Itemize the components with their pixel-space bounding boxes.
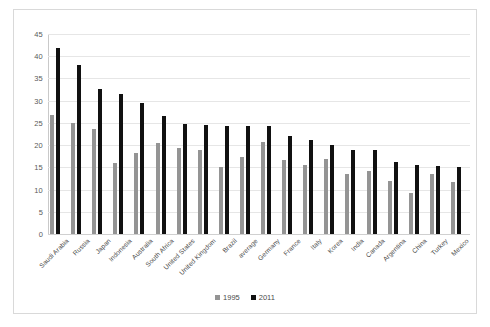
x-axis-tick-label: Turkey: [430, 237, 449, 256]
x-axis-tick-label: Mexico: [450, 237, 470, 257]
y-axis-tick-label: 5: [39, 207, 43, 216]
chart-legend: 19952011: [14, 293, 476, 302]
y-axis-tick-label: 10: [34, 185, 43, 194]
x-axis-tick-label: Russia: [71, 237, 91, 257]
y-axis-tick-label: 45: [34, 30, 43, 39]
x-axis-tick-label: France: [282, 237, 302, 257]
legend-label: 1995: [223, 293, 240, 302]
legend-swatch-icon: [251, 295, 256, 300]
y-axis-tick-label: 15: [34, 163, 43, 172]
chart-frame: 454035302520151050 Saudi ArabiaRussiaJap…: [13, 9, 477, 314]
x-axis-tick-label: Saudi Arabia: [37, 237, 69, 269]
y-axis-tick-label: 30: [34, 96, 43, 105]
y-axis-tick-label: 40: [34, 52, 43, 61]
x-axis-tick-label: Germany: [256, 237, 281, 262]
x-axis-tick-label: Brazil: [221, 237, 238, 254]
y-axis-tick-label: 0: [39, 230, 43, 239]
y-axis-tick-label: 20: [34, 141, 43, 150]
legend-item[interactable]: 1995: [215, 293, 240, 302]
x-axis-tick-label: China: [411, 237, 428, 254]
x-axis-tick-label: Korea: [326, 237, 344, 255]
y-axis-tick-label: 25: [34, 118, 43, 127]
legend-label: 2011: [259, 293, 275, 302]
y-axis-tick-label: 35: [34, 74, 43, 83]
x-axis-tick-label: Italy: [309, 237, 323, 251]
legend-item[interactable]: 2011: [251, 293, 275, 302]
x-axis-tick-label: India: [349, 237, 364, 252]
x-axis-tick-label: Japan: [94, 237, 112, 255]
legend-swatch-icon: [215, 295, 220, 300]
gridline-0: 0: [48, 234, 470, 235]
x-axis-labels: Saudi ArabiaRussiaJapanIndonesiaAustrali…: [48, 34, 470, 234]
